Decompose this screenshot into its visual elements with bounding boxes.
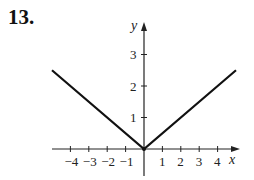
plot-area: xy−4−3−2−11234123 bbox=[0, 0, 254, 180]
x-tick-label: −1 bbox=[120, 154, 134, 169]
origin-point bbox=[142, 147, 146, 151]
y-tick-label: 1 bbox=[130, 110, 137, 125]
x-tick-label: −3 bbox=[83, 154, 97, 169]
x-tick-label: 1 bbox=[159, 154, 166, 169]
x-tick-label: 4 bbox=[214, 154, 221, 169]
x-tick-label: 3 bbox=[196, 154, 203, 169]
y-tick-label: 3 bbox=[130, 47, 137, 62]
x-tick-label: 2 bbox=[177, 154, 184, 169]
y-axis-label: y bbox=[129, 18, 138, 33]
x-tick-label: −4 bbox=[64, 154, 78, 169]
y-tick-label: 2 bbox=[130, 79, 137, 94]
y-axis-arrow-icon bbox=[141, 22, 147, 31]
x-axis-label: x bbox=[228, 152, 236, 167]
x-tick-label: −2 bbox=[101, 154, 115, 169]
